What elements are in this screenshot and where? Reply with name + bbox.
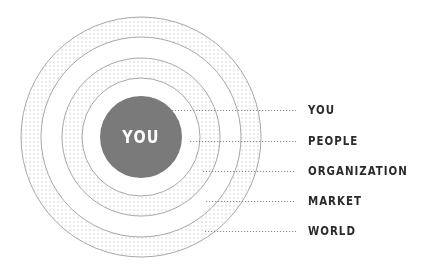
label-world: WORLD <box>308 224 356 238</box>
label-you: YOU <box>308 103 335 117</box>
label-organization: ORGANIZATION <box>308 164 408 178</box>
organization-people-band <box>0 0 430 274</box>
label-people: PEOPLE <box>308 134 358 148</box>
center-label: YOU <box>109 127 173 147</box>
concentric-circles-diagram <box>0 0 430 274</box>
label-market: MARKET <box>308 194 362 208</box>
